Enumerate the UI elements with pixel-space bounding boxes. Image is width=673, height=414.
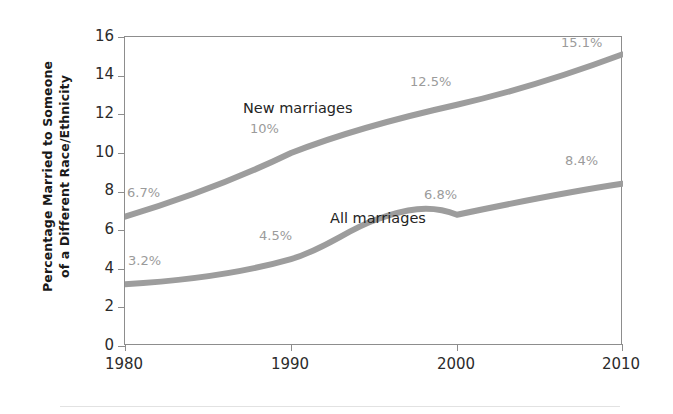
y-tick-6 — [118, 230, 125, 231]
point-label-all-2000: 6.8% — [424, 187, 457, 202]
point-label-new-1990: 10% — [250, 121, 279, 136]
y-tick-12 — [118, 114, 125, 115]
point-label-new-1980: 6.7% — [127, 185, 160, 200]
point-label-all-1980: 3.2% — [128, 253, 161, 268]
plot-area: 6.7% 10% 12.5% 15.1% 3.2% 4.5% 6.8% 8.4%… — [124, 36, 622, 345]
series-lines — [125, 37, 623, 346]
plot-inner: 6.7% 10% 12.5% 15.1% 3.2% 4.5% 6.8% 8.4%… — [125, 37, 621, 344]
y-tick-16 — [118, 37, 125, 38]
line-all-marriages — [125, 184, 622, 284]
point-label-new-2000: 12.5% — [410, 74, 451, 89]
y-tick-label-8: 8 — [86, 181, 114, 199]
line-new-marriages — [125, 55, 622, 217]
x-tick-label-1980: 1980 — [89, 355, 159, 373]
y-tick-label-16: 16 — [78, 27, 114, 45]
y-tick-label-10: 10 — [78, 143, 114, 161]
y-tick-2 — [118, 307, 125, 308]
footer-divider — [60, 406, 620, 407]
y-tick-label-4: 4 — [86, 259, 114, 277]
y-axis-title-line-2: of a Different Race/Ethnicity — [56, 61, 73, 292]
series-label-new-marriages: New marriages — [243, 100, 353, 116]
point-label-all-2010: 8.4% — [565, 153, 598, 168]
y-tick-label-14: 14 — [78, 65, 114, 83]
y-tick-8 — [118, 192, 125, 193]
x-tick-label-1990: 1990 — [255, 355, 325, 373]
point-label-all-1990: 4.5% — [259, 228, 292, 243]
series-label-all-marriages: All marriages — [330, 210, 426, 226]
y-tick-label-0: 0 — [86, 336, 114, 354]
y-tick-label-6: 6 — [86, 220, 114, 238]
y-tick-0 — [118, 346, 125, 347]
y-axis-title-line-1: Percentage Married to Someone — [40, 61, 57, 292]
x-tick-label-2000: 2000 — [421, 355, 491, 373]
y-tick-label-2: 2 — [86, 297, 114, 315]
y-tick-14 — [118, 76, 125, 77]
y-tick-4 — [118, 269, 125, 270]
x-tick-label-2010: 2010 — [586, 355, 656, 373]
point-label-new-2010: 15.1% — [561, 35, 602, 50]
chart-screenshot: Percentage Married to Someone of a Diffe… — [0, 0, 673, 414]
y-tick-label-12: 12 — [78, 104, 114, 122]
y-tick-10 — [118, 153, 125, 154]
